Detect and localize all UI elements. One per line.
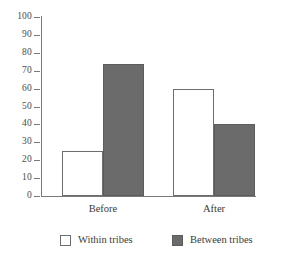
bar-after-within-tribes [173,89,214,196]
y-tick-label: 40 [22,120,32,130]
y-tick-label: 60 [22,84,32,94]
y-tick-label: 30 [22,138,32,148]
bar-chart: 1009080706050403020100 BeforeAfter Withi… [0,0,295,257]
legend-swatch-white [60,235,71,246]
y-tick-label: 100 [17,12,32,22]
x-axis-line [41,196,256,197]
legend-item-between-tribes[interactable]: Between tribes [172,234,253,246]
y-tick-mark [34,196,40,197]
y-tick-label: 20 [22,155,32,165]
y-axis-tick-labels: 1009080706050403020100 [0,17,32,196]
y-tick-mark [34,89,40,90]
y-tick-mark [34,160,40,161]
legend-swatch-gray [172,235,183,246]
y-tick-mark [34,71,40,72]
y-tick-mark [34,124,40,125]
x-tick-label-after: After [174,203,254,215]
y-tick-label: 0 [27,191,32,201]
x-tick-label-before: Before [63,203,143,215]
chart-legend: Within tribesBetween tribes [0,230,295,252]
y-tick-mark [34,107,40,108]
legend-label: Between tribes [190,234,253,246]
y-tick-label: 90 [22,30,32,40]
bar-before-within-tribes [62,151,103,196]
legend-item-within-tribes[interactable]: Within tribes [60,234,133,246]
bar-after-between-tribes [214,124,255,196]
y-tick-label: 10 [22,173,32,183]
y-tick-mark [34,53,40,54]
y-tick-mark [34,17,40,18]
y-tick-label: 70 [22,66,32,76]
y-tick-label: 80 [22,48,32,58]
legend-label: Within tribes [78,234,133,246]
y-tick-mark [34,142,40,143]
bars-container [41,17,255,196]
y-tick-label: 50 [22,102,32,112]
y-tick-mark [34,178,40,179]
bar-before-between-tribes [103,64,144,196]
y-tick-mark [34,35,40,36]
